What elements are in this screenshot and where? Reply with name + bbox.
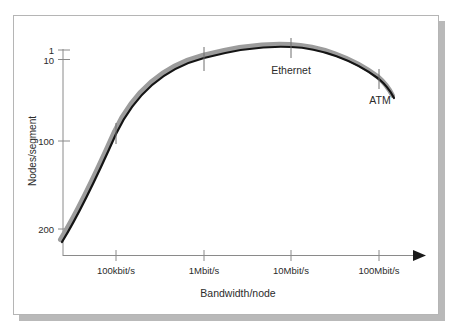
y-tick-label-100: 100 [38,136,54,147]
x-axis-title: Bandwidth/node [200,287,275,299]
y-tick-label-10: 10 [43,55,54,66]
annotation-atm: ATM [369,94,390,106]
x-axis-arrow-icon [413,250,426,261]
x-tick-label-100kbit: 100kbit/s [97,265,135,276]
x-tick-label-10mbit: 10Mbit/s [273,265,309,276]
figure-root: 1 10 100 200 100kbit/s 1Mbit/s 10Mbit/s … [0,0,458,336]
series-shadow-path [61,44,393,239]
series-line-bandwidth-vs-nodes [62,47,394,242]
chart-plate: 1 10 100 200 100kbit/s 1Mbit/s 10Mbit/s … [13,15,439,315]
annotation-ethernet: Ethernet [271,64,311,76]
x-tick-label-100mbit: 100Mbit/s [358,265,399,276]
y-axis-title: Nodes/segment [27,116,38,186]
chart-canvas: 1 10 100 200 100kbit/s 1Mbit/s 10Mbit/s … [14,16,438,314]
x-tick-label-1mbit: 1Mbit/s [189,265,220,276]
y-tick-label-200: 200 [38,224,54,235]
